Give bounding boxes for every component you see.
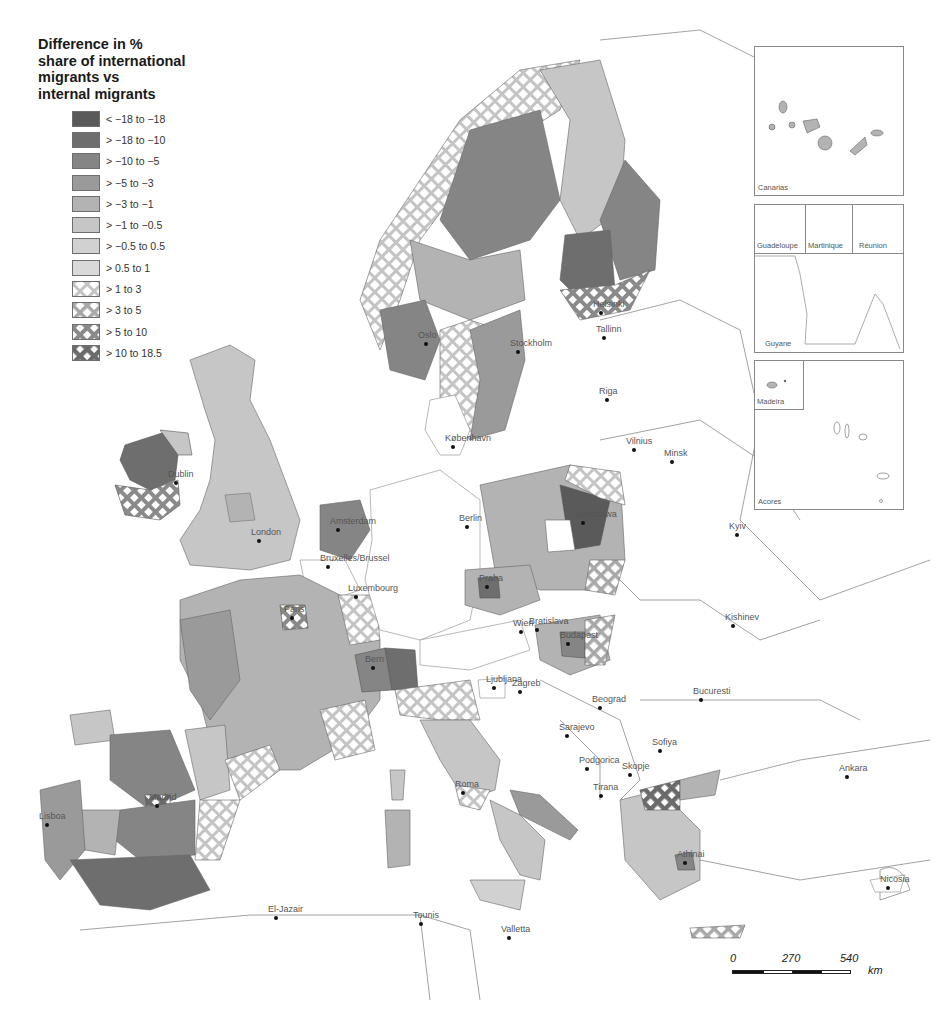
city-label: Vilnius [626, 436, 652, 446]
scale-segment [763, 970, 793, 974]
legend-label: > −18 to −10 [106, 134, 165, 146]
city-label: Tirana [593, 782, 618, 792]
legend-item: > −5 to −3 [72, 172, 238, 193]
city-dot [465, 525, 469, 529]
city-label: Budapest [560, 630, 598, 640]
city-dot [461, 791, 465, 795]
city-dot [670, 460, 674, 464]
map-legend: Difference in % share of international m… [38, 36, 238, 364]
legend-item: > −10 to −5 [72, 151, 238, 172]
city-label: Nicosia [880, 874, 910, 884]
city-label: Zagreb [512, 678, 541, 688]
city-dot [599, 311, 603, 315]
city-label: Helsinki [593, 299, 625, 309]
legend-label: > 5 to 10 [106, 326, 147, 338]
city-label: Oslo [418, 330, 437, 340]
legend-swatch [72, 132, 100, 148]
city-label: Bruxelles/Brussel [320, 553, 390, 563]
guyane-outline [755, 254, 903, 352]
city-dot [566, 642, 570, 646]
scale-tick-540: 540 [840, 952, 858, 964]
city-label: Warszawa [575, 509, 617, 519]
city-label: Lisboa [39, 811, 66, 821]
legend-item: > 1 to 3 [72, 278, 238, 299]
city-dot [45, 823, 49, 827]
inset-label: Martinique [808, 241, 843, 250]
legend-swatch-hatched [72, 345, 100, 361]
city-label: Ankara [839, 763, 868, 773]
city-label: Athinai [677, 849, 705, 859]
city-label: Sarajevo [559, 722, 595, 732]
scale-tick-0: 0 [730, 952, 736, 964]
inset-madeira: Madeira [754, 360, 804, 410]
legend-swatch [72, 260, 100, 276]
scale-tick-270: 270 [782, 952, 800, 964]
legend-items: < −18 to −18 > −18 to −10 > −10 to −5 > … [72, 108, 238, 364]
legend-swatch [72, 217, 100, 233]
city-label: Beograd [592, 694, 626, 704]
city-dot [565, 734, 569, 738]
city-dot [699, 698, 703, 702]
city-label: Kyiv [729, 521, 746, 531]
city-dot [419, 922, 423, 926]
region-sardinia [385, 810, 410, 868]
city-dot [451, 445, 455, 449]
city-label: Tounis [413, 910, 439, 920]
inset-martinique: Martinique [805, 204, 853, 254]
city-dot [599, 794, 603, 798]
city-dot [371, 666, 375, 670]
region-andalucia [70, 855, 210, 910]
legend-item: > −3 to −1 [72, 193, 238, 214]
legend-label: < −18 to −18 [106, 113, 165, 125]
city-dot [886, 886, 890, 890]
city-dot [155, 804, 159, 808]
legend-swatch [72, 175, 100, 191]
region-uk [180, 345, 300, 570]
city-label: Berlin [459, 513, 482, 523]
city-dot [535, 628, 539, 632]
city-dot [581, 521, 585, 525]
city-label: London [251, 527, 281, 537]
city-label: København [445, 433, 491, 443]
legend-item: > 5 to 10 [72, 321, 238, 342]
city-dot [257, 539, 261, 543]
city-dot [507, 936, 511, 940]
legend-item: > 0.5 to 1 [72, 257, 238, 278]
legend-item: > 3 to 5 [72, 300, 238, 321]
region-galicia [70, 710, 115, 745]
city-label: Valletta [501, 924, 530, 934]
legend-item: > 10 to 18.5 [72, 342, 238, 363]
city-dot [683, 861, 687, 865]
city-label: Madrid [149, 792, 177, 802]
city-label: Bucuresti [693, 686, 731, 696]
region-uk-midlands [225, 493, 255, 522]
city-dot [516, 350, 520, 354]
legend-item: > −1 to −0.5 [72, 214, 238, 235]
city-dot [518, 690, 522, 694]
city-label: Roma [455, 779, 479, 789]
city-dot [632, 448, 636, 452]
city-dot [354, 595, 358, 599]
canarias-islands [755, 47, 903, 195]
city-dot [492, 686, 496, 690]
city-dot [290, 616, 294, 620]
city-dot [628, 773, 632, 777]
inset-guadeloupe: Guadeloupe [754, 204, 806, 254]
region-sicily [470, 880, 525, 910]
inset-label: Canarias [758, 183, 788, 192]
inset-label: Guadeloupe [757, 241, 798, 250]
legend-swatch [72, 196, 100, 212]
region-castilla-mancha [115, 800, 195, 860]
city-label: Tallinn [596, 324, 622, 334]
legend-label: > 10 to 18.5 [106, 347, 162, 359]
region-norway-south [380, 300, 440, 380]
scale-segment [792, 970, 822, 974]
legend-title: Difference in % share of international m… [38, 36, 238, 102]
region-hungary-east [585, 615, 615, 665]
city-dot [424, 342, 428, 346]
legend-item: > −0.5 to 0.5 [72, 236, 238, 257]
city-label: Amsterdam [330, 516, 376, 526]
city-dot [336, 528, 340, 532]
legend-label: > −10 to −5 [106, 155, 159, 167]
legend-label: > 3 to 5 [106, 304, 141, 316]
